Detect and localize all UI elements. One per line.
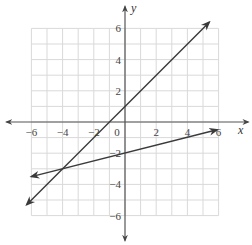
x-tick-label: −2 [88,126,100,138]
y-axis-label: y [130,1,137,15]
x-axis-label: x [237,123,244,137]
x-tick-label: 0 [114,126,120,138]
plotted-lines [27,22,217,205]
x-tick-label: 2 [153,126,159,138]
x-tick-label: −4 [57,126,69,138]
axes [6,7,248,241]
line-a [27,22,210,205]
y-tick-label: −4 [109,178,121,190]
y-tick-label: 4 [116,54,122,66]
coordinate-plane: −6−4−20246−6−4−2246 x y [0,0,252,245]
x-tick-label: 6 [216,126,222,138]
y-tick-label: −2 [109,147,121,159]
x-tick-label: −6 [26,126,38,138]
y-tick-label: 6 [116,22,122,34]
y-tick-label: −6 [109,210,121,222]
y-tick-label: 2 [116,85,122,97]
